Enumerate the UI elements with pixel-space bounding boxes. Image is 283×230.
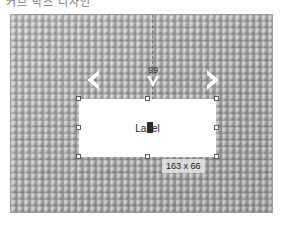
element-label-text-wrap: Label [135, 123, 159, 134]
chevron-left-icon[interactable] [85, 69, 103, 91]
spacing-value-label: 99 [144, 65, 162, 75]
clipped-header-strip: 커브 박스 디자인 [0, 0, 283, 10]
design-canvas[interactable]: 99 Label 163 x 66 [10, 14, 273, 213]
vertical-alignment-guide [152, 15, 153, 105]
resize-handle-se[interactable] [214, 154, 219, 159]
resize-handle-e[interactable] [214, 125, 219, 130]
resize-handle-nw[interactable] [76, 96, 81, 101]
resize-handle-w[interactable] [76, 125, 81, 130]
resize-handle-s[interactable] [145, 154, 150, 159]
resize-handle-n[interactable] [145, 96, 150, 101]
text-caret [147, 122, 153, 133]
dimension-tooltip: 163 x 66 [162, 159, 205, 173]
chevron-down-icon [146, 76, 160, 88]
clipped-header-text: 커브 박스 디자인 [6, 0, 91, 9]
chevron-right-icon[interactable] [203, 69, 221, 91]
element-label-text-container: Label [79, 99, 216, 157]
selected-element[interactable]: Label [79, 99, 216, 157]
resize-handle-sw[interactable] [76, 154, 81, 159]
resize-handle-ne[interactable] [214, 96, 219, 101]
